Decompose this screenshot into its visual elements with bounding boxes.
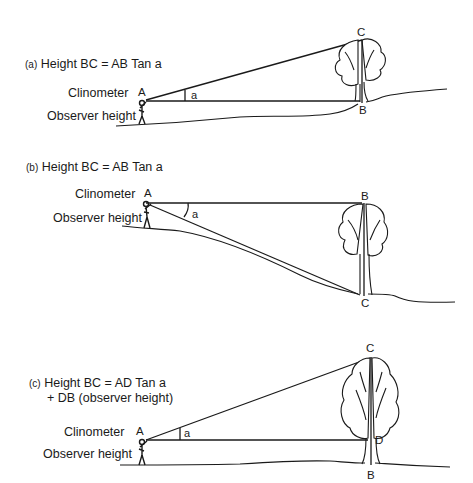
clinometer-label-b: Clinometer — [75, 187, 135, 201]
panel-b-tag: (b) — [26, 162, 38, 173]
sight-line-ac — [146, 40, 362, 100]
panel-b-formula-text: Height BC = AB Tan a — [42, 160, 163, 174]
observer-figure-c — [139, 440, 147, 466]
clinometer-label-c: Clinometer — [64, 425, 124, 439]
ground-line-b-right — [368, 294, 455, 302]
point-d-label: D — [375, 434, 383, 446]
ground-line-b — [122, 226, 358, 294]
ground-line-a — [116, 104, 358, 126]
panel-c-formula-text: Height BC = AD Tan a — [44, 376, 166, 390]
observer-height-label-a: Observer height — [47, 109, 136, 123]
clinometer-height-diagram: (a) Height BC = AB Tan a Clinometer A Ob… — [0, 0, 473, 483]
clinometer-label-a: Clinometer — [68, 86, 128, 100]
point-c-label: C — [366, 342, 374, 354]
diagram-drawing — [0, 0, 473, 483]
observer-height-label-b: Observer height — [53, 211, 142, 225]
point-a-label: A — [136, 425, 144, 437]
sight-line-ac — [146, 358, 370, 440]
ground-line-a-right — [366, 89, 447, 102]
tree-c — [341, 357, 399, 465]
angle-marker-a — [184, 203, 188, 217]
panel-a-tag: (a) — [25, 59, 37, 70]
observer-figure-b — [144, 202, 152, 229]
angle-label-c: a — [184, 427, 190, 439]
panel-c-drawing — [120, 357, 450, 467]
ground-line-c — [120, 461, 365, 465]
point-b-label: B — [361, 190, 369, 202]
point-a-label: A — [144, 187, 152, 199]
point-c-label: C — [361, 297, 369, 309]
point-b-label: B — [367, 469, 375, 481]
observer-figure-a — [139, 101, 146, 125]
point-b-label: B — [359, 104, 367, 116]
angle-label-b: a — [192, 208, 198, 220]
tree-b — [339, 203, 388, 296]
panel-a-drawing — [116, 39, 447, 126]
point-a-label: A — [138, 86, 146, 98]
panel-c-formula: (c) Height BC = AD Tan a — [29, 376, 166, 391]
panel-b-drawing — [122, 202, 455, 303]
panel-a-formula: (a) Height BC = AB Tan a — [25, 57, 162, 72]
ground-line-c-right — [375, 463, 450, 467]
tree-a — [335, 39, 385, 103]
panel-c-tag: (c) — [29, 378, 41, 389]
point-c-label: C — [357, 26, 365, 38]
panel-a-formula-text: Height BC = AB Tan a — [41, 57, 162, 71]
angle-label-a: a — [191, 89, 197, 101]
panel-c-formula-line2: + DB (observer height) — [47, 391, 173, 405]
observer-height-label-c: Observer height — [43, 447, 132, 461]
sight-line-ac — [150, 205, 360, 295]
panel-b-formula: (b) Height BC = AB Tan a — [26, 160, 163, 175]
